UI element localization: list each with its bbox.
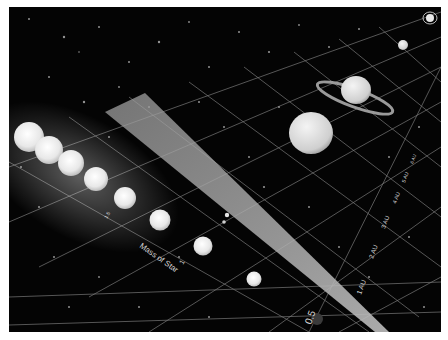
star-icon — [58, 150, 84, 176]
small-planet-icon — [398, 40, 408, 50]
distance-tick-1au: 1 AU — [355, 279, 367, 296]
star-icon — [150, 210, 171, 231]
star-icon — [84, 167, 108, 191]
distance-tick-4au: 4 AU — [391, 191, 401, 204]
moon-icon — [222, 220, 226, 224]
earth-like-planet-icon — [225, 213, 229, 217]
star-icon — [247, 272, 262, 287]
ringed-planet-icon — [314, 76, 395, 120]
illustration-frame: Mass of Star 1 1.5 0.5 1 AU 2 AU 3 AU 4 … — [9, 7, 441, 332]
distance-tick-2au: 2 AU — [367, 243, 379, 259]
distance-tick-5au: 5 AU — [400, 171, 409, 184]
star-icon — [194, 237, 213, 256]
gas-giant-planet-icon — [289, 112, 333, 154]
star-icon — [114, 187, 136, 209]
distance-tick-3au: 3 AU — [380, 215, 390, 229]
habitable-zone-diagram: Mass of Star 1 1.5 0.5 1 AU 2 AU 3 AU 4 … — [9, 7, 441, 332]
mass-axis-title: Mass of Star — [138, 241, 180, 274]
